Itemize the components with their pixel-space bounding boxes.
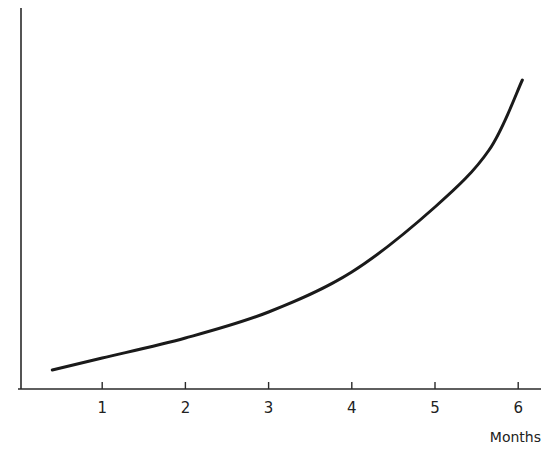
x-ticks <box>102 382 518 389</box>
x-tick-label: 1 <box>97 399 107 417</box>
x-tick-label: 5 <box>430 399 440 417</box>
x-tick-label: 6 <box>513 399 523 417</box>
x-tick-label: 4 <box>347 399 357 417</box>
x-tick-label: 2 <box>181 399 191 417</box>
data-curve <box>52 80 522 370</box>
chart: 123456 Months <box>0 0 553 453</box>
x-axis-title: Months <box>490 429 541 445</box>
x-tick-label: 3 <box>264 399 274 417</box>
x-tick-labels: 123456 <box>97 399 523 417</box>
